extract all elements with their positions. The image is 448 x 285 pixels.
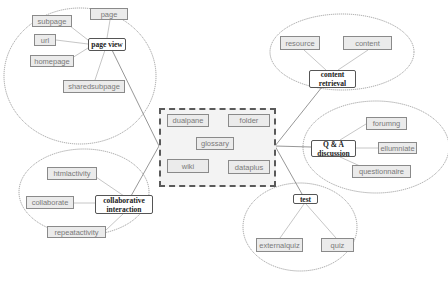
hub-label: page view <box>91 40 122 49</box>
node-ellumniate[interactable]: ellumniate <box>378 142 417 154</box>
node-label: externalquiz <box>259 241 299 250</box>
node-label: ellumniate <box>380 144 414 153</box>
hub-label: test <box>300 195 311 204</box>
node-homepage[interactable]: homepage <box>30 55 74 67</box>
hub-label-line1: content <box>321 70 345 79</box>
node-externalquiz[interactable]: externalquiz <box>256 238 303 252</box>
node-htmlactivity[interactable]: htmlactivity <box>47 167 97 180</box>
node-label: questionnaire <box>359 167 404 176</box>
node-label: dualpane <box>173 116 204 125</box>
node-label: quiz <box>331 241 345 250</box>
node-dataplus[interactable]: dataplus <box>228 160 270 174</box>
page-view-cluster-ellipse <box>4 8 156 144</box>
node-label: wiki <box>182 162 195 171</box>
node-repeatactivity[interactable]: repeatactivity <box>47 226 106 238</box>
node-label: collaborate <box>32 198 69 207</box>
hub-label-line2: interaction <box>107 205 142 214</box>
node-label: sharedsubpage <box>68 82 120 91</box>
node-label: dataplus <box>235 163 263 172</box>
node-dualpane[interactable]: dualpane <box>167 114 209 127</box>
node-label: homepage <box>34 57 69 66</box>
node-label: page <box>101 10 118 19</box>
hub-test[interactable]: test <box>293 194 318 204</box>
node-glossary[interactable]: glossary <box>196 137 234 150</box>
node-label: url <box>41 36 49 45</box>
test-connectors <box>280 204 336 238</box>
node-label: htmlactivity <box>53 169 90 178</box>
node-label: glossary <box>201 139 229 148</box>
hub-label-line1: collaborative <box>103 196 145 205</box>
node-folder[interactable]: folder <box>228 114 270 127</box>
node-quiz[interactable]: quiz <box>321 238 354 252</box>
hub-qa-discussion[interactable]: Q & A discussion <box>311 140 356 157</box>
node-subpage[interactable]: subpage <box>32 15 72 27</box>
node-url[interactable]: url <box>34 34 56 46</box>
hub-label-line2: discussion <box>317 149 350 158</box>
node-label: subpage <box>38 17 67 26</box>
node-label: resource <box>285 39 314 48</box>
node-collaborate[interactable]: collaborate <box>26 196 74 209</box>
hub-label-line1: Q & A <box>323 140 344 149</box>
node-label: repeatactivity <box>54 228 98 237</box>
node-questionnaire[interactable]: questionnaire <box>352 165 411 178</box>
node-label: folder <box>240 116 259 125</box>
node-resource[interactable]: resource <box>280 36 320 50</box>
node-label: content <box>355 39 380 48</box>
node-forumng[interactable]: forumng <box>366 117 407 130</box>
node-sharedsubpage[interactable]: sharedsubpage <box>63 80 125 93</box>
collaborative-cluster-ellipse <box>19 149 149 235</box>
content-retrieval-connectors <box>304 50 368 70</box>
hub-label-line2: retrieval <box>319 79 346 88</box>
hub-content-retrieval[interactable]: content retrieval <box>309 70 356 88</box>
node-page[interactable]: page <box>90 8 128 20</box>
hub-collaborative-interaction[interactable]: collaborative interaction <box>95 195 153 214</box>
hub-page-view[interactable]: page view <box>88 38 126 51</box>
node-content[interactable]: content <box>343 36 392 50</box>
node-wiki[interactable]: wiki <box>167 159 209 173</box>
node-label: forumng <box>373 119 401 128</box>
